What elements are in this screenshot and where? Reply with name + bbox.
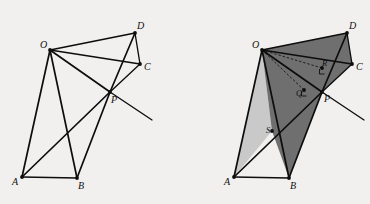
- vertex-label-c: C: [144, 61, 151, 72]
- vertex-label-c: C: [356, 61, 363, 72]
- vertex-dot-o: [260, 48, 264, 52]
- segment-cp: [110, 64, 140, 92]
- right-figure-svg: OABCDPQRS: [185, 0, 370, 204]
- segment-op: [50, 50, 110, 92]
- vertex-dot-c: [350, 62, 354, 66]
- segment-ob: [50, 50, 77, 178]
- segment-bp: [77, 92, 110, 178]
- vertex-label-r: R: [321, 58, 328, 68]
- segment-od: [50, 33, 135, 50]
- segment-dc: [135, 33, 140, 64]
- vertex-label-p: P: [110, 94, 117, 105]
- vertex-label-a: A: [223, 176, 231, 187]
- segment-oa: [22, 50, 50, 177]
- vertex-label-o: O: [40, 39, 47, 50]
- panel-right-shaded: OABCDPQRS: [185, 0, 370, 204]
- vertex-label-b: B: [290, 180, 296, 191]
- vertex-label-q: Q: [296, 88, 302, 98]
- vertex-label-p: P: [323, 93, 330, 104]
- vertex-label-d: D: [348, 20, 357, 31]
- vertex-label-b: B: [78, 180, 84, 191]
- vertex-label-a: A: [11, 176, 19, 187]
- vertex-dot-a: [20, 175, 24, 179]
- segment-ab: [22, 177, 77, 178]
- vertex-dot-d: [133, 31, 137, 35]
- panel-left-unshaded: OABCDP: [0, 0, 185, 204]
- diagram-canvas: OABCDP OABCDPQRS: [0, 0, 370, 204]
- left-figure-svg: OABCDP: [0, 0, 185, 204]
- vertex-dot-q: [302, 88, 306, 92]
- segment-ap: [22, 92, 110, 177]
- vertex-dot-a: [232, 175, 236, 179]
- vertex-label-d: D: [136, 20, 145, 31]
- vertex-dot-o: [48, 48, 52, 52]
- vertex-label-o: O: [252, 39, 259, 50]
- vertex-dot-c: [138, 62, 142, 66]
- vertex-dot-s: [270, 129, 274, 133]
- vertex-dot-d: [345, 31, 349, 35]
- left-edge-group: [22, 33, 152, 178]
- segment-ab: [234, 177, 289, 178]
